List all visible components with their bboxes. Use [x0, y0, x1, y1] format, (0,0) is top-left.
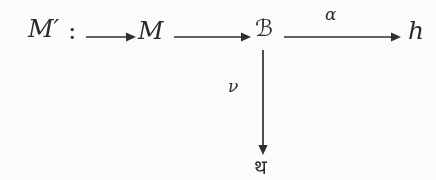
commutative-diagram: M′ : M ℬ h थ α ν	[0, 0, 436, 180]
node-fraktur-k: ℬ	[255, 17, 273, 40]
arrow-fraktur-k-to-h	[284, 32, 401, 41]
arrow-label-nu: ν	[228, 78, 238, 95]
arrow-layer	[0, 0, 436, 180]
arrow-label-alpha: α	[325, 6, 336, 23]
colon-separator: :	[68, 18, 76, 43]
arrow-m-to-fraktur-k	[174, 32, 251, 41]
arrow-into-m	[86, 32, 136, 41]
arrow-fraktur-k-to-fraktur-h	[258, 50, 267, 155]
node-m-prime: M′	[28, 16, 59, 41]
node-fraktur-h: थ	[254, 157, 267, 177]
node-h: h	[408, 18, 424, 43]
node-m: M	[138, 18, 164, 43]
